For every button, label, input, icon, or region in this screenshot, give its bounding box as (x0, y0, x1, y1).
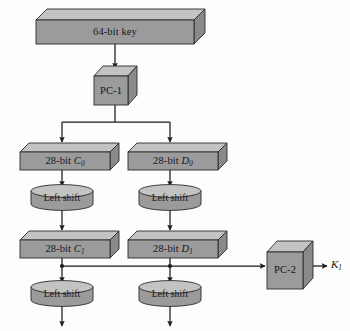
node-left-shift-c1: Left shift (31, 281, 93, 307)
c1-front-face (20, 240, 110, 258)
diagram-canvas: 64-bit key PC-1 28-bit C0 28-bit D0 (0, 0, 350, 331)
node-left-shift-c0: Left shift (31, 185, 93, 211)
c0-top-face (20, 143, 119, 152)
junction-dot-c1 (60, 264, 64, 268)
node-c0: 28-bit C0 (20, 143, 119, 170)
shift-c0-top (31, 185, 93, 198)
node-64bit-key: 64-bit key (36, 9, 205, 44)
c1-top-face (20, 231, 119, 240)
node-pc1: PC-1 (94, 66, 137, 105)
key-top-face (36, 9, 205, 20)
d0-front-face (128, 152, 218, 170)
shift-d1-top (139, 281, 201, 294)
output-key-label: K1 (330, 258, 342, 272)
node-pc2: PC-2 (267, 241, 313, 289)
node-d0: 28-bit D0 (128, 143, 227, 170)
d0-top-face (128, 143, 227, 152)
node-left-shift-d0: Left shift (139, 185, 201, 211)
des-key-schedule-diagram: 64-bit key PC-1 28-bit C0 28-bit D0 (0, 0, 350, 331)
key-front-face (36, 20, 194, 44)
node-c1: 28-bit C1 (20, 231, 119, 258)
shift-c1-top (31, 281, 93, 294)
pc1-front-face (94, 76, 128, 105)
c0-front-face (20, 152, 110, 170)
d1-top-face (128, 231, 227, 240)
shift-d0-top (139, 185, 201, 198)
node-d1: 28-bit D1 (128, 231, 227, 258)
pc2-front-face (267, 252, 303, 289)
d1-front-face (128, 240, 218, 258)
output-key-sub: 1 (338, 263, 342, 271)
junction-dot-d1 (168, 264, 172, 268)
node-left-shift-d1: Left shift (139, 281, 201, 307)
